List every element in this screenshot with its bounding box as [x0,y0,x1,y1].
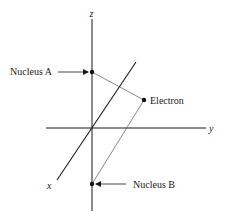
coordinate-diagram: z y x Nucleus A Electron Nucleus B [0,0,229,223]
y-axis-label: y [208,123,214,134]
x-axis [57,62,136,180]
electron-label: Electron [150,95,184,106]
nucleus-a-label: Nucleus A [10,66,53,77]
connector-electron-nucleus-b [92,100,144,184]
z-axis-label: z [89,8,94,19]
electron-point [142,98,146,102]
nucleus-a-point [90,70,94,74]
nucleus-b-point [90,182,94,186]
x-axis-label: x [46,180,52,191]
nucleus-b-label: Nucleus B [133,179,175,190]
connector-nucleus-a-electron [92,72,144,100]
